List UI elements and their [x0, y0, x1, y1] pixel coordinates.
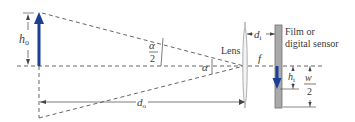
- half-angle-numerator: α: [149, 39, 155, 51]
- angle-label: α: [202, 61, 208, 73]
- upper-ray: [42, 13, 244, 66]
- half-angle-denominator: 2: [150, 53, 155, 64]
- focal-length-label: f: [258, 52, 263, 64]
- half-width-denominator: 2: [307, 86, 312, 97]
- lower-ray: [39, 66, 244, 118]
- sensor-label-line2: digital sensor: [285, 38, 339, 49]
- lens-label: Lens: [221, 45, 241, 56]
- lens-diagram: ho α 2 α Lens do f di Film or digital se…: [0, 0, 355, 122]
- object-arrowhead: [34, 12, 44, 24]
- sensor-label-line1: Film or: [285, 26, 315, 37]
- lens: [243, 28, 247, 104]
- half-width-numerator: w: [305, 72, 312, 83]
- half-angle-arc: [161, 38, 163, 66]
